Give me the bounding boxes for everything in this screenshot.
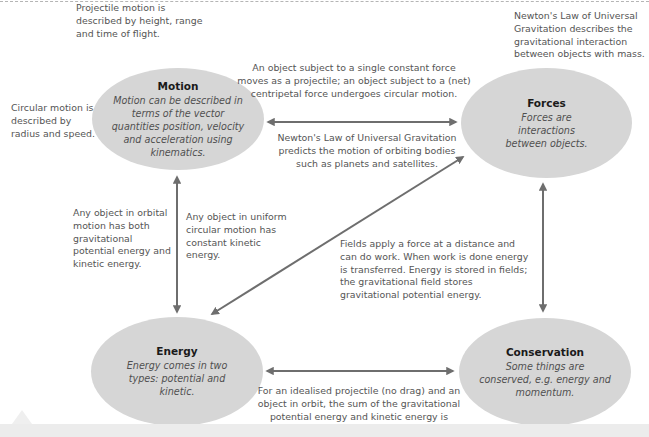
node-conservation: Conservation Some things are conserved, … (459, 318, 631, 426)
node-motion-title: Motion (158, 80, 199, 92)
node-conservation-description: Some things are conserved, e.g. energy a… (473, 360, 617, 399)
node-forces: Forces Forces are interactions between o… (461, 68, 632, 178)
note-fields: Fields apply a force at a distance and c… (340, 238, 530, 302)
note-orbital-energy: Any object in orbital motion has both gr… (73, 207, 175, 271)
note-motion-forces: An object subject to a single constant f… (236, 62, 472, 100)
node-conservation-title: Conservation (506, 346, 584, 358)
node-forces-description: Forces are interactions between objects. (475, 111, 618, 150)
node-forces-title: Forces (527, 97, 566, 109)
node-energy-description: Energy comes in two types: potential and… (105, 359, 249, 398)
note-uniform-circular: Any object in uniform circular motion ha… (186, 211, 298, 262)
note-orbit-prediction: Newton's Law of Universal Gravitation pr… (272, 132, 462, 170)
node-energy: Energy Energy comes in two types: potent… (91, 317, 263, 426)
node-motion-description: Motion can be described in terms of the … (106, 94, 250, 159)
note-circular: Circular motion is described by radius a… (11, 102, 95, 140)
node-energy-title: Energy (156, 345, 197, 357)
bottom-tab-marker (12, 410, 32, 424)
note-projectile: Projectile motion is described by height… (76, 2, 206, 40)
note-gravitation-forces: Newton's Law of Universal Gravitation de… (514, 10, 648, 61)
bottom-band (0, 424, 649, 437)
